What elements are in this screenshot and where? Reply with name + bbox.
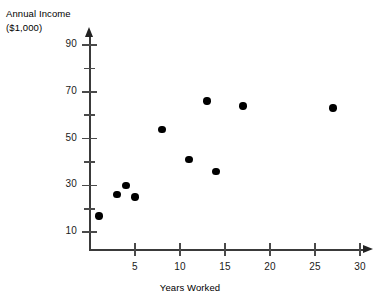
y-axis-tick-label: 70 (53, 85, 77, 96)
x-axis-tick-label: 5 (123, 261, 147, 272)
x-axis-tick-label: 10 (168, 261, 192, 272)
data-point (212, 168, 219, 175)
y-axis-tick-major (82, 44, 97, 46)
y-axis-tick-label: 90 (53, 38, 77, 49)
data-point (131, 193, 138, 200)
x-axis-tick (359, 243, 361, 256)
x-axis-title: Years Worked (160, 282, 220, 293)
y-axis-title-line-2: ($1,000) (6, 22, 42, 33)
y-axis-tick-major (82, 138, 97, 140)
y-axis-tick-minor (84, 114, 95, 116)
y-axis-arrow-icon (85, 27, 93, 37)
data-point (158, 126, 165, 133)
x-axis-tick-label: 25 (303, 261, 327, 272)
y-axis-tick-minor (84, 68, 95, 70)
x-axis-tick (314, 243, 316, 256)
x-axis-line (89, 249, 367, 251)
y-axis-tick-label: 30 (53, 178, 77, 189)
x-axis-arrow-icon (363, 245, 373, 253)
data-point (113, 191, 120, 198)
y-axis-title-line-1: Annual Income (6, 8, 71, 19)
y-axis-tick-minor (84, 208, 95, 210)
data-point (239, 102, 246, 109)
y-axis-tick-minor (84, 161, 95, 163)
y-axis-tick-major (82, 185, 97, 187)
data-point (329, 104, 336, 111)
x-axis-tick-label: 30 (348, 261, 372, 272)
x-axis-tick (269, 243, 271, 256)
data-point (122, 182, 129, 189)
y-axis-tick-label: 10 (53, 225, 77, 236)
y-axis-tick-label: 50 (53, 132, 77, 143)
x-axis-tick (134, 243, 136, 256)
y-axis-tick-major (82, 231, 97, 233)
data-point (95, 212, 102, 219)
x-axis-tick-label: 15 (213, 261, 237, 272)
x-axis-tick-label: 20 (258, 261, 282, 272)
data-point (185, 156, 192, 163)
data-point (203, 97, 210, 104)
y-axis-tick-major (82, 91, 97, 93)
x-axis-tick (179, 243, 181, 256)
scatter-plot-annual-income-vs-years-worked: Annual Income ($1,000) Years Worked 1030… (0, 0, 380, 302)
x-axis-tick (224, 243, 226, 256)
